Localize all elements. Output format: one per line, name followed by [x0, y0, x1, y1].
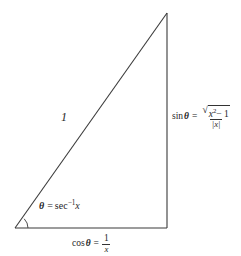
- arcsec-function-name: sec: [55, 200, 68, 211]
- radical-expression: √ x2− 1: [202, 105, 229, 119]
- cos-theta-symbol: θ: [85, 239, 92, 249]
- trigonometry-triangle-figure: 1 θ=sec−1x sinθ= √ x2− 1 |x| cosθ= 1 x: [0, 0, 241, 256]
- radicand-tail: − 1: [216, 109, 228, 119]
- adjacent-side-label: cosθ= 1 x: [72, 234, 111, 254]
- opposite-side-label: sinθ= √ x2− 1 |x|: [172, 105, 232, 129]
- angle-arc: [24, 219, 28, 228]
- sin-theta-symbol: θ: [183, 112, 190, 122]
- sin-denominator: |x|: [210, 119, 223, 129]
- hypotenuse-label: 1: [61, 111, 67, 123]
- sin-function-name: sin: [172, 112, 183, 122]
- cos-equals-sign: =: [92, 239, 101, 249]
- hypotenuse-line: [15, 13, 167, 228]
- radical-sign: √: [202, 105, 207, 115]
- sin-fraction: √ x2− 1 |x|: [200, 105, 231, 129]
- equals-sign: =: [45, 200, 55, 211]
- cos-fraction: 1 x: [102, 234, 111, 254]
- sin-numerator: √ x2− 1: [200, 105, 231, 119]
- angle-label: θ=sec−1x: [38, 200, 80, 211]
- sin-equals-sign: =: [190, 112, 199, 122]
- cos-denominator: x: [102, 244, 110, 254]
- cos-numerator: 1: [102, 234, 111, 244]
- radicand: x2− 1: [208, 105, 230, 119]
- cos-function-name: cos: [72, 239, 85, 249]
- arcsec-argument: x: [75, 200, 79, 211]
